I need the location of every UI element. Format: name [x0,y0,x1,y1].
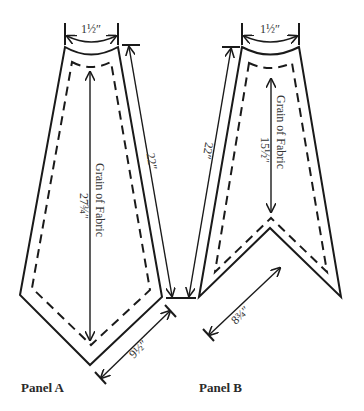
panel-a-label: Panel A [21,380,64,396]
panel-b-bottom-edge-label: 8¾″ [228,303,252,327]
panel-a-top-width-label: 1½″ [81,22,101,36]
panel-a-top-dimension: 1½″ [65,22,118,45]
panel-b-grain-label: Grain of Fabric [274,95,288,169]
pattern-diagram: 1½″ 22″ Grain of Fabric 27¾″ 9½″ 1½″ 22″ [0,0,364,411]
panel-b-top-dimension: 1½″ [242,22,299,45]
panel-a-grain-arrow: Grain of Fabric 27¾″ [77,72,107,340]
panel-b-label: Panel B [199,380,242,396]
panel-b-bottom-dimension: 8¾″ [203,268,280,341]
panel-a-grain-length-label: 27¾″ [77,193,91,219]
panel-b-cut-line [199,47,341,297]
panel-b-grain-length-label: 15½″ [258,137,272,163]
panel-b-shape [199,47,341,297]
panel-a-side-dimension: 22″ [122,45,184,298]
panel-a-grain-label: Grain of Fabric [93,163,107,237]
panel-a-bottom-edge-label: 9½″ [126,337,150,361]
panel-a-bottom-dimension: 9½″ [95,305,176,384]
panel-b-grain-arrow: Grain of Fabric 15½″ [258,79,288,212]
panel-a-side-length-label: 22″ [144,152,161,171]
panel-b-side-length-label: 22″ [200,141,217,160]
panel-b-top-width-label: 1½″ [260,22,280,36]
